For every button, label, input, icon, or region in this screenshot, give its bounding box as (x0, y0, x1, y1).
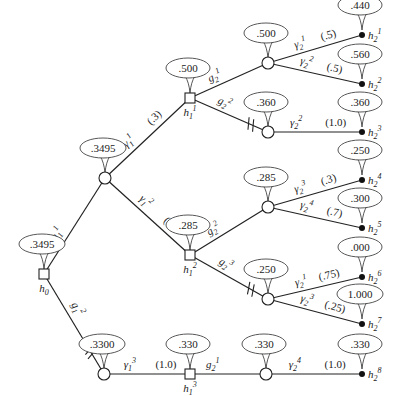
terminal-dot-icon (359, 129, 365, 135)
chance-circle-icon (98, 368, 110, 380)
probability-label: (.5) (326, 60, 344, 76)
chance-node: .3495 (80, 138, 126, 184)
node-value: .250 (350, 144, 370, 156)
decision-tree-diagram: g11g12γ11(.3)γ12(.7)γ13(1.0)g21g22g22g23… (0, 0, 395, 396)
chance-circle-icon (262, 57, 274, 69)
terminal-node: .000 (338, 237, 382, 280)
value-callout: .360 (244, 92, 288, 127)
terminal-dot-icon (359, 177, 365, 183)
value-callout: .000 (338, 237, 382, 272)
callout-tail (185, 352, 195, 369)
terminal-label: h21 (368, 27, 382, 44)
branch-symbol: γ23 (299, 290, 315, 310)
callout-tail (39, 252, 49, 269)
value-callout: .560 (338, 44, 382, 79)
callout-tail (263, 110, 273, 127)
value-callout: .285 (166, 215, 210, 250)
node-value: .3495 (91, 142, 116, 154)
branch-label: γ13 (124, 356, 136, 373)
node-value: 1.000 (348, 288, 373, 300)
branch-label: γ21 (292, 33, 309, 53)
callout-tail (357, 110, 367, 127)
value-callout: .330 (242, 334, 286, 369)
decision-square-icon (185, 93, 195, 103)
chance-circle-icon (262, 126, 274, 138)
decision-square-icon (39, 269, 49, 279)
branch-probability: (.75) (317, 266, 341, 284)
branch-label: γ22 (299, 52, 315, 71)
node-label: h13 (183, 380, 197, 396)
value-callout: .300 (338, 188, 382, 223)
branch-probability: (1.0) (155, 358, 176, 371)
probability-label: (.7) (326, 204, 344, 220)
decision-node: .330 (166, 334, 210, 379)
terminal-dot-icon (359, 274, 365, 280)
tree-canvas: g11g12γ11(.3)γ12(.7)γ13(1.0)g21g22g22g23… (0, 0, 395, 396)
probability-label: (.75) (317, 266, 341, 284)
chance-circle-icon (260, 368, 272, 380)
value-callout: .3495 (80, 138, 126, 173)
branch-symbol: γ23 (292, 178, 309, 198)
branch-label: γ21 (293, 272, 309, 291)
branch-symbol: γ22 (299, 52, 315, 71)
branch-probability: (.3) (319, 171, 338, 188)
branch-label: γ24 (299, 196, 315, 215)
callout-tail (357, 255, 367, 272)
terminal-node: .250 (338, 140, 382, 183)
terminal-node: .360 (338, 92, 382, 135)
decision-node: .285 (166, 215, 210, 260)
branch-symbol: g12 (67, 298, 89, 318)
node-value: .250 (256, 263, 276, 275)
value-callout: .3300 (79, 334, 125, 369)
probability-label: (1.0) (325, 116, 346, 129)
branch-symbol: γ13 (124, 356, 136, 373)
node-value: .500 (256, 27, 276, 39)
terminal-node: .440 (338, 0, 382, 38)
chance-node: .250 (244, 259, 288, 305)
node-value: .285 (256, 171, 276, 183)
pruned-branch-mark (253, 119, 254, 132)
branch-label: γ24 (289, 356, 301, 373)
chance-circle-icon (262, 201, 274, 213)
value-callout: .250 (338, 140, 382, 175)
pruned-branch-mark (248, 117, 249, 130)
branch-symbol: γ24 (299, 196, 315, 215)
callout-tail (357, 352, 367, 369)
probability-label: (.3) (319, 171, 338, 188)
decision-square-icon (185, 369, 195, 379)
callout-tail (99, 352, 109, 369)
probability-label: (1.0) (325, 358, 346, 371)
value-callout: .500 (244, 23, 288, 58)
callout-tail (357, 62, 367, 79)
node-value: .330 (178, 338, 198, 350)
node-value: .360 (350, 96, 370, 108)
value-callout: .285 (244, 167, 288, 202)
callout-tail (357, 302, 367, 319)
chance-node: .330 (242, 334, 286, 380)
branch-label: g21 (206, 356, 220, 373)
chance-circle-icon (262, 293, 274, 305)
probability-label: (.5) (319, 26, 338, 43)
branch-symbol: g21 (206, 356, 220, 373)
terminal-label: h25 (368, 220, 382, 237)
node-value: .285 (178, 219, 198, 231)
terminal-label: h24 (368, 172, 382, 189)
decision-node: .3495 (19, 234, 65, 279)
decision-square-icon (185, 250, 195, 260)
node-value: .330 (254, 338, 274, 350)
node-value: .330 (350, 338, 370, 350)
node-value: .3300 (90, 338, 115, 350)
terminal-dot-icon (359, 81, 365, 87)
callout-tail (185, 76, 195, 93)
node-label: h11 (184, 104, 197, 121)
branch-label: γ22 (290, 114, 302, 131)
decision-node: .500 (166, 58, 210, 103)
node-label: h12 (183, 261, 197, 278)
terminal-dot-icon (359, 32, 365, 38)
callout-tail (263, 277, 273, 294)
edges: g11g12γ11(.3)γ12(.7)γ13(1.0)g21g22g22g23… (44, 26, 362, 374)
branch-symbol: γ24 (289, 356, 301, 373)
branch-probability: (1.0) (325, 358, 346, 371)
chance-node: .360 (244, 92, 288, 138)
callout-tail (357, 158, 367, 175)
